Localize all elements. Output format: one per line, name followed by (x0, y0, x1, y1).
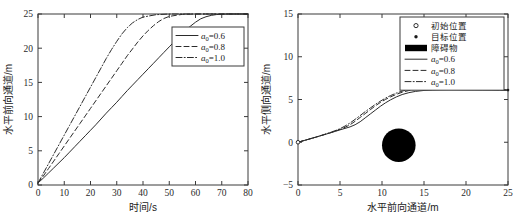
y-tick-label: 15 (24, 78, 34, 88)
x-tick-label: 60 (191, 188, 201, 198)
y-tick-label: 5 (288, 95, 293, 105)
x-axis-label: 时间/s (129, 201, 157, 213)
x-tick-label: 5 (338, 188, 343, 198)
y-tick-label: 10 (24, 112, 34, 122)
x-tick-label: 15 (419, 188, 429, 198)
y-tick-label: 0 (28, 180, 33, 190)
legend-label: 初始位置 (431, 21, 467, 31)
y-tick-label: 5 (28, 146, 33, 156)
y-tick-label: 20 (24, 44, 34, 54)
legend-label: a0=0.6 (431, 54, 456, 65)
x-tick-label: 40 (138, 188, 148, 198)
legend-label: a0=1.0 (431, 77, 456, 88)
obstacle-marker (382, 128, 416, 162)
legend-label: 目标位置 (431, 32, 467, 42)
goal-position-marker (507, 89, 510, 92)
y-tick-label: 25 (24, 9, 34, 19)
x-tick-label: 0 (296, 188, 301, 198)
x-tick-label: 10 (377, 188, 387, 198)
y-tick-label: 15 (284, 9, 294, 19)
x-tick-label: 20 (461, 188, 471, 198)
legend-label: a0=0.8 (431, 66, 456, 77)
x-tick-label: 80 (243, 188, 253, 198)
legend-label: 障碍物 (431, 43, 458, 53)
legend-label: a0=0.8 (201, 42, 226, 53)
chart-panel-left: 010203040506070800510152025时间/s水平前向通道/ma… (0, 0, 257, 219)
chart-svg-left: 010203040506070800510152025时间/s水平前向通道/ma… (0, 0, 257, 219)
x-tick-label: 20 (86, 188, 96, 198)
chart-svg-right: 0510152025−5051015水平前向通道/m水平侧向通道/m初始位置目标… (257, 0, 514, 219)
legend-dot-filled-icon (414, 35, 417, 38)
x-tick-label: 30 (112, 188, 122, 198)
legend-left[interactable]: a0=0.6a0=0.8a0=1.0 (172, 27, 244, 66)
x-tick-label: 10 (60, 188, 70, 198)
x-tick-label: 70 (217, 188, 227, 198)
legend-label: a0=1.0 (201, 53, 226, 64)
y-axis-label: 水平侧向通道/m (260, 64, 272, 135)
x-axis-label: 水平前向通道/m (367, 201, 438, 213)
legend-right[interactable]: 初始位置目标位置障碍物a0=0.6a0=0.8a0=1.0 (400, 17, 504, 90)
chart-panel-right: 0510152025−5051015水平前向通道/m水平侧向通道/m初始位置目标… (257, 0, 514, 219)
x-tick-label: 50 (165, 188, 175, 198)
y-tick-label: 0 (288, 138, 293, 148)
y-axis-label: 水平前向通道/m (2, 64, 14, 135)
legend-label: a0=0.6 (201, 31, 226, 42)
figure-container: 010203040506070800510152025时间/s水平前向通道/ma… (0, 0, 514, 219)
start-position-marker (296, 140, 300, 144)
y-tick-label: −5 (283, 180, 293, 190)
x-tick-label: 25 (503, 188, 513, 198)
legend-obstacle-rect-icon (405, 45, 427, 51)
y-tick-label: 10 (284, 52, 294, 62)
x-tick-label: 0 (36, 188, 41, 198)
legend-circle-open-icon (414, 24, 418, 28)
